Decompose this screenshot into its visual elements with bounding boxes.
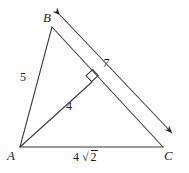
segment-ab: [20, 27, 52, 147]
bc-dimension-arrow: [60, 15, 172, 133]
segment-altitude-af: [20, 82, 92, 147]
radical-group: √ 2: [82, 150, 98, 164]
length-label-altitude: 4: [66, 100, 72, 112]
vertex-label-c: C: [164, 149, 173, 162]
geometry-diagram: A B C 5 4 7 4 √ 2: [0, 0, 189, 173]
length-label-dimension-arrow: 7: [103, 57, 109, 69]
length-label-side-ac: 4 √ 2: [73, 150, 98, 164]
triangle-figure-svg: [0, 0, 189, 173]
vertex-label-b: B: [43, 11, 51, 24]
side-ac-radicand: 2: [91, 150, 98, 164]
radical-sign-icon: √: [82, 150, 89, 164]
vertex-label-a: A: [7, 149, 15, 162]
side-ac-coefficient: 4: [73, 150, 79, 164]
length-label-side-ab: 5: [20, 71, 26, 83]
segment-bc: [52, 27, 163, 147]
